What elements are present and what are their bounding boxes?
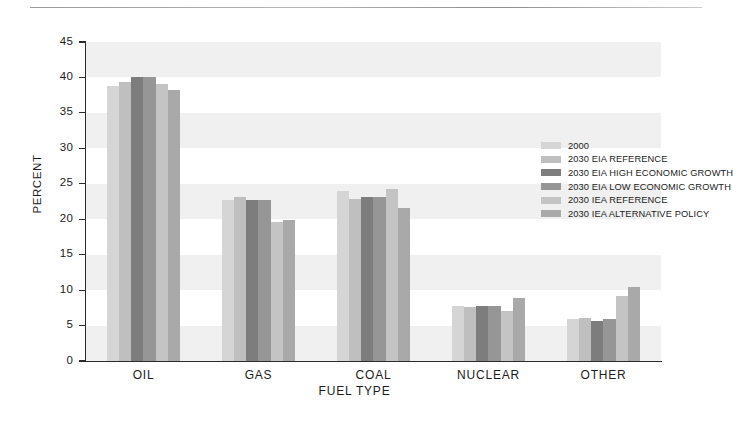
bar xyxy=(258,200,270,361)
bar-group-oil xyxy=(107,42,180,361)
bar-group-gas xyxy=(222,42,295,361)
legend-label: 2030 EIA LOW ECONOMIC GROWTH xyxy=(568,182,731,192)
bar xyxy=(579,318,591,361)
bar xyxy=(156,84,168,361)
legend-color-swatch xyxy=(541,142,561,149)
bar xyxy=(386,189,398,361)
chart-legend: 20002030 EIA REFERENCE2030 EIA HIGH ECON… xyxy=(541,139,733,221)
y-axis-tick-label: 20 xyxy=(49,212,73,224)
legend-label: 2030 EIA REFERENCE xyxy=(568,154,667,164)
bar xyxy=(616,296,628,361)
x-axis-label-other: OTHER xyxy=(546,368,661,382)
x-axis-label-oil: OIL xyxy=(86,368,201,382)
bar xyxy=(271,222,283,361)
bar xyxy=(168,90,180,361)
y-axis-tick-mark xyxy=(79,148,85,149)
y-axis-tick-mark xyxy=(79,77,85,78)
legend-item: 2030 EIA REFERENCE xyxy=(541,153,733,167)
legend-item: 2030 EIA LOW ECONOMIC GROWTH xyxy=(541,180,733,194)
y-axis-tick-mark xyxy=(79,360,85,361)
y-axis-title: PERCENT xyxy=(31,139,43,229)
bar xyxy=(452,306,464,361)
legend-item: 2030 IEA ALTERNATIVE POLICY xyxy=(541,207,733,221)
bar xyxy=(476,306,488,361)
legend-item: 2030 EIA HIGH ECONOMIC GROWTH xyxy=(541,166,733,180)
legend-color-swatch xyxy=(541,210,561,217)
y-axis-tick-mark xyxy=(79,290,85,291)
y-axis-tick-mark xyxy=(79,219,85,220)
x-axis-line xyxy=(85,361,662,362)
legend-color-swatch xyxy=(541,169,561,176)
bar xyxy=(283,220,295,361)
bar xyxy=(567,319,579,361)
legend-item: 2030 IEA REFERENCE xyxy=(541,193,733,207)
bar xyxy=(107,86,119,361)
y-axis-tick-mark xyxy=(79,325,85,326)
y-axis-tick-label: 10 xyxy=(49,283,73,295)
y-axis-tick-mark xyxy=(79,254,85,255)
legend-color-swatch xyxy=(541,197,561,204)
bar xyxy=(361,197,373,361)
y-axis-tick-label: 30 xyxy=(49,141,73,153)
legend-label: 2030 EIA HIGH ECONOMIC GROWTH xyxy=(568,168,733,178)
bar xyxy=(628,287,640,361)
y-axis-tick-label: 45 xyxy=(49,35,73,47)
x-axis-title: FUEL TYPE xyxy=(0,384,709,398)
x-axis-label-nuclear: NUCLEAR xyxy=(431,368,546,382)
legend-label: 2030 IEA ALTERNATIVE POLICY xyxy=(568,209,709,219)
legend-color-swatch xyxy=(541,183,561,190)
x-axis-label-gas: GAS xyxy=(201,368,316,382)
y-axis-tick-label: 5 xyxy=(49,318,73,330)
y-axis-tick-label: 0 xyxy=(49,354,73,366)
bar xyxy=(246,200,258,361)
y-axis-tick-label: 25 xyxy=(49,176,73,188)
bar xyxy=(501,311,513,361)
bar xyxy=(349,199,361,361)
bar xyxy=(143,77,155,361)
bar xyxy=(398,208,410,361)
bar xyxy=(373,197,385,361)
bar xyxy=(513,298,525,361)
bar xyxy=(464,307,476,361)
y-axis-tick-mark xyxy=(79,183,85,184)
y-axis-tick-mark xyxy=(79,41,85,42)
plot-area: 20002030 EIA REFERENCE2030 EIA HIGH ECON… xyxy=(86,42,661,361)
bar xyxy=(488,306,500,361)
y-axis-tick-label: 35 xyxy=(49,105,73,117)
bar-group-nuclear xyxy=(452,42,525,361)
bar-group-coal xyxy=(337,42,410,361)
bar xyxy=(603,319,615,361)
y-axis-tick-label: 15 xyxy=(49,247,73,259)
y-axis-line xyxy=(85,41,86,362)
legend-item: 2000 xyxy=(541,139,733,153)
legend-color-swatch xyxy=(541,156,561,163)
bar xyxy=(337,191,349,361)
y-axis-tick-label: 40 xyxy=(49,70,73,82)
x-axis-label-coal: COAL xyxy=(316,368,431,382)
y-axis-tick-mark xyxy=(79,112,85,113)
legend-label: 2030 IEA REFERENCE xyxy=(568,195,667,205)
bar xyxy=(234,197,246,361)
bar xyxy=(222,200,234,361)
legend-label: 2000 xyxy=(568,141,589,151)
bar xyxy=(119,82,131,361)
bar xyxy=(131,77,143,361)
bar xyxy=(591,321,603,361)
